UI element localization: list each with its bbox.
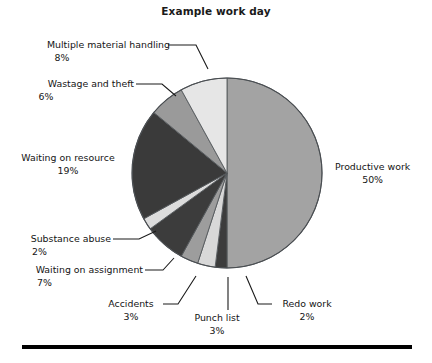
callout-label-redo-work: Redo work bbox=[276, 298, 338, 311]
callout-label-wastage-and-theft: Wastage and theft bbox=[0, 78, 134, 91]
callout-value-accidents: 3% bbox=[102, 311, 160, 324]
callout-label-substance-abuse: Substance abuse bbox=[0, 233, 111, 246]
leader-line-accidents bbox=[163, 276, 196, 304]
callout-value-wastage-and-theft: 6% bbox=[0, 91, 134, 104]
callout-value-substance-abuse: 2% bbox=[0, 246, 111, 259]
bottom-rule-divider bbox=[22, 345, 412, 349]
callout-label-multiple-material-handling: Multiple material handling bbox=[0, 39, 170, 52]
callout-waiting-on-resource: Waiting on resource 19% bbox=[8, 152, 128, 177]
callout-multiple-material-handling: Multiple material handling 8% bbox=[0, 39, 170, 64]
pie-slice-productive-work: Productive work 50% bbox=[227, 78, 322, 268]
callout-waiting-on-assignment: Waiting on assignment 7% bbox=[0, 264, 143, 289]
callout-label-waiting-on-assignment: Waiting on assignment bbox=[0, 264, 143, 277]
callout-accidents: Accidents 3% bbox=[102, 298, 160, 323]
leader-line-waiting-on-assignment bbox=[145, 258, 174, 270]
callout-value-punch-list: 3% bbox=[186, 325, 248, 338]
leader-line-wastage-and-theft bbox=[136, 84, 176, 96]
callout-label-accidents: Accidents bbox=[102, 298, 160, 311]
callout-productive-work: Productive work 50% bbox=[335, 161, 410, 186]
pie-slice-group: Productive work 50%Redo work 2%Punch lis… bbox=[132, 78, 322, 268]
callout-substance-abuse: Substance abuse 2% bbox=[0, 233, 111, 258]
callout-value-productive-work: 50% bbox=[335, 174, 410, 187]
leader-line-multiple-material-handling bbox=[168, 45, 208, 69]
callout-value-waiting-on-resource: 19% bbox=[8, 165, 128, 178]
callout-value-multiple-material-handling: 8% bbox=[0, 52, 170, 65]
callout-wastage-and-theft: Wastage and theft 6% bbox=[0, 78, 134, 103]
leader-line-redo-work bbox=[246, 276, 272, 304]
callout-label-punch-list: Punch list bbox=[186, 312, 248, 325]
callout-value-redo-work: 2% bbox=[276, 311, 338, 324]
callout-redo-work: Redo work 2% bbox=[276, 298, 338, 323]
callout-label-waiting-on-resource: Waiting on resource bbox=[8, 152, 128, 165]
callout-label-productive-work: Productive work bbox=[335, 161, 410, 174]
callout-value-waiting-on-assignment: 7% bbox=[0, 277, 143, 290]
leader-line-substance-abuse bbox=[113, 231, 156, 239]
callout-punch-list: Punch list 3% bbox=[186, 312, 248, 337]
pie-chart-figure: Example work day Productive work 50%Redo… bbox=[0, 0, 432, 363]
